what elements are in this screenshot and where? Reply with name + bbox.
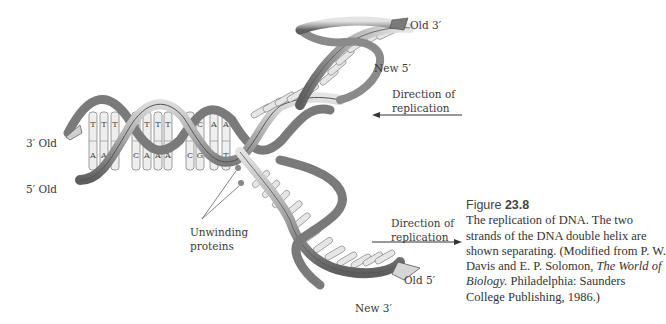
label-direction-bottom: Direction of replication: [391, 217, 454, 244]
figure-word: Figure: [466, 198, 501, 212]
protein-dot-1: [235, 165, 241, 171]
label-direction-top: Direction of replication: [392, 88, 455, 115]
unwinding-line2: proteins: [190, 240, 248, 254]
label-old-5: Old 5′: [404, 274, 435, 287]
figure-number: 23.8: [505, 198, 529, 212]
protein-dot-2: [238, 180, 244, 186]
base-letter: A: [89, 151, 96, 160]
unwinding-line1: Unwinding: [190, 226, 248, 240]
protein-pointer-2: [202, 186, 239, 219]
unwinding-proteins: [202, 165, 244, 219]
direction-top-line1: Direction of: [392, 88, 455, 102]
label-new-5: New 5′: [374, 62, 411, 75]
base-letter: T: [112, 120, 118, 129]
base-letter: T: [101, 120, 107, 129]
base-pair-rung: [312, 236, 333, 254]
base-letter: C: [133, 151, 139, 160]
base-pair: TA: [164, 112, 172, 170]
direction-bottom-line1: Direction of: [391, 217, 454, 231]
base-letter: T: [155, 120, 161, 129]
figure-caption: Figure 23.8 The replication of DNA. The …: [466, 198, 666, 305]
direction-bottom-line2: replication: [391, 231, 454, 245]
protein-pointer-1: [202, 171, 236, 219]
figure-label: Figure 23.8: [466, 198, 666, 213]
base-letter: A: [143, 151, 150, 160]
base-pair: TA: [89, 112, 97, 170]
base-letter: C: [187, 151, 193, 160]
base-letter: T: [144, 120, 150, 129]
base-letter: T: [90, 120, 96, 129]
direction-top-line2: replication: [392, 102, 455, 116]
label-old-3: Old 3′: [410, 19, 441, 32]
base-letter: A: [210, 120, 217, 129]
label-3-old: 3′ Old: [26, 137, 57, 150]
label-unwinding-proteins: Unwinding proteins: [190, 226, 248, 253]
base-pair: TA: [154, 112, 162, 170]
label-5-old: 5′ Old: [26, 183, 57, 196]
label-new-3: New 3′: [355, 302, 392, 315]
caption-text: The replication of DNA. The two strands …: [466, 213, 666, 305]
base-letter: T: [165, 120, 171, 129]
